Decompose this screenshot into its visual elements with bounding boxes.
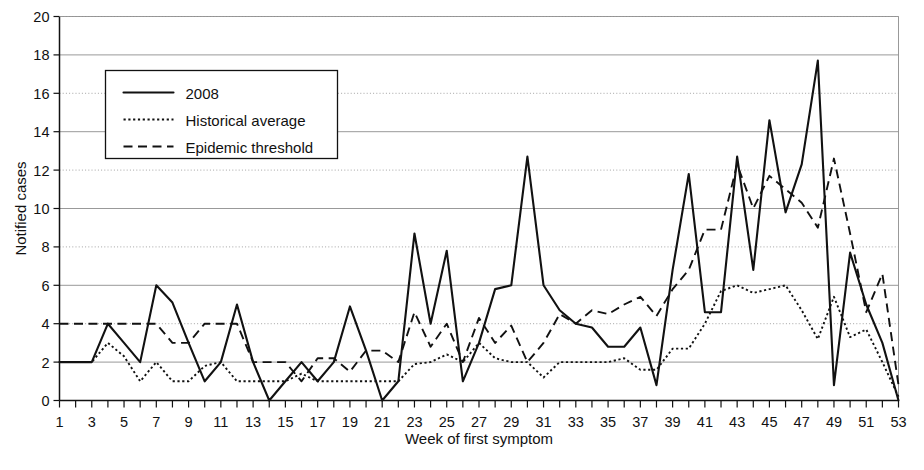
x-tick-label: 5 bbox=[120, 414, 128, 430]
x-tick-label: 23 bbox=[406, 414, 422, 430]
x-tick-label: 53 bbox=[890, 414, 906, 430]
y-tick-label: 0 bbox=[41, 393, 49, 409]
x-axis-title: Week of first symptom bbox=[405, 430, 553, 447]
x-tick-label: 31 bbox=[535, 414, 551, 430]
x-tick-label: 41 bbox=[697, 414, 713, 430]
chart-container: 02468101214161820 1357911131517192123252… bbox=[0, 0, 924, 470]
x-tick-label: 49 bbox=[826, 414, 842, 430]
y-tick-label: 4 bbox=[41, 316, 49, 332]
x-tick-label: 3 bbox=[88, 414, 96, 430]
y-axis-tick-labels: 02468101214161820 bbox=[33, 9, 49, 409]
y-tick-label: 2 bbox=[41, 355, 49, 371]
x-tick-label: 35 bbox=[600, 414, 616, 430]
y-tick-label: 12 bbox=[33, 163, 49, 179]
x-tick-label: 39 bbox=[665, 414, 681, 430]
x-axis-ticks bbox=[60, 401, 899, 408]
y-tick-label: 18 bbox=[33, 47, 49, 63]
gridlines bbox=[60, 17, 899, 363]
x-tick-label: 33 bbox=[568, 414, 584, 430]
x-tick-label: 19 bbox=[342, 414, 358, 430]
x-tick-label: 25 bbox=[439, 414, 455, 430]
y-tick-label: 10 bbox=[33, 201, 49, 217]
x-tick-label: 1 bbox=[55, 414, 63, 430]
series-line-epidemic-threshold bbox=[60, 159, 899, 386]
y-tick-label: 20 bbox=[33, 9, 49, 25]
x-tick-label: 9 bbox=[185, 414, 193, 430]
y-tick-label: 14 bbox=[33, 124, 49, 140]
y-tick-label: 8 bbox=[41, 239, 49, 255]
x-tick-label: 45 bbox=[761, 414, 777, 430]
x-tick-label: 17 bbox=[310, 414, 326, 430]
y-axis-ticks bbox=[54, 17, 60, 401]
y-tick-label: 6 bbox=[41, 278, 49, 294]
x-tick-label: 21 bbox=[374, 414, 390, 430]
x-tick-label: 15 bbox=[277, 414, 293, 430]
x-tick-label: 47 bbox=[794, 414, 810, 430]
legend-label: Historical average bbox=[186, 112, 306, 129]
x-tick-label: 27 bbox=[471, 414, 487, 430]
x-axis-tick-labels: 1357911131517192123252729313335373941434… bbox=[55, 414, 906, 430]
legend-label: 2008 bbox=[186, 85, 219, 102]
x-tick-label: 43 bbox=[729, 414, 745, 430]
x-tick-label: 29 bbox=[503, 414, 519, 430]
legend-label: Epidemic threshold bbox=[186, 139, 314, 156]
line-chart: 02468101214161820 1357911131517192123252… bbox=[0, 0, 924, 470]
x-tick-label: 51 bbox=[858, 414, 874, 430]
x-tick-label: 7 bbox=[152, 414, 160, 430]
x-tick-label: 37 bbox=[632, 414, 648, 430]
y-axis-title: Notified cases bbox=[12, 161, 29, 255]
chart-legend: 2008Historical averageEpidemic threshold bbox=[106, 71, 338, 159]
x-tick-label: 11 bbox=[213, 414, 228, 430]
x-tick-label: 13 bbox=[245, 414, 261, 430]
y-tick-label: 16 bbox=[33, 86, 49, 102]
